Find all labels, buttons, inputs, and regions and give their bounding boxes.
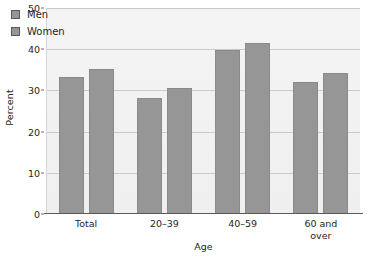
bar [167,88,192,214]
chart-legend: MenWomen [11,6,65,40]
bar [137,98,162,214]
bar [245,43,270,214]
y-axis-tick-mark [41,49,44,50]
x-axis-tick-label: 40–59 [228,218,257,230]
y-axis-tick-label: 30 [28,85,40,96]
bar [215,50,240,214]
legend-item-label: Women [27,26,65,37]
x-axis-title: Age [47,241,360,252]
y-axis-tick-label: 0 [34,209,40,220]
y-axis-tick-label: 40 [28,44,40,55]
y-axis-tick-mark [41,172,44,173]
x-axis-tick-label: 20–39 [150,218,179,230]
legend-item: Women [11,23,65,40]
y-axis-tick-mark [41,90,44,91]
y-axis-title-text: Percent [4,89,15,125]
y-axis-tick-label: 20 [28,126,40,137]
legend-item-label: Men [27,9,48,20]
legend-swatch-icon [11,27,20,36]
x-axis-tick-label: 60 and over [304,218,337,241]
gridline [47,49,360,50]
legend-item: Men [11,6,65,23]
plot-area [47,8,360,214]
bar [59,77,84,214]
bar [323,73,348,214]
gridline [47,8,360,9]
bar-chart-figure: Percent 01020304050 MenWomen Total20–394… [0,0,367,259]
x-axis-line [44,213,363,214]
y-axis-tick-mark [41,131,44,132]
y-axis-tick-label: 10 [28,167,40,178]
bar [293,82,318,214]
x-axis-tick-label: Total [75,218,97,230]
bar [89,69,114,214]
legend-swatch-icon [11,10,20,19]
